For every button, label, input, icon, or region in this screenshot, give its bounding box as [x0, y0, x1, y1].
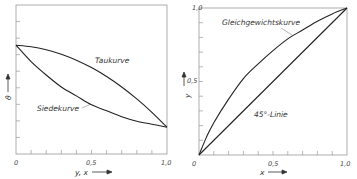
- left-ylabel: ϑ: [4, 95, 13, 100]
- right-xtick-0: 0: [192, 160, 196, 168]
- right-ylabel: y: [183, 93, 192, 99]
- series-45-linie: [199, 8, 347, 155]
- right-xlabel-arrow: [268, 170, 287, 174]
- right-curves: [199, 8, 347, 155]
- right-xtick-0-5: 0,5: [268, 160, 278, 168]
- right-ytick-1-0: 1,0: [192, 4, 202, 12]
- annotation-taukurve: Taukurve: [95, 56, 130, 65]
- gleichgewichtskurve-leader: [281, 28, 292, 35]
- left-ylabel-arrow: [6, 74, 10, 92]
- series-siedekurve: [16, 45, 167, 127]
- left-curves: [16, 45, 167, 127]
- left-xlabel: y, x: [74, 168, 89, 177]
- annotation-gleichgewichtskurve: Gleichgewichtskurve: [222, 18, 300, 27]
- right-ytick-0-5: 0,5: [187, 77, 197, 85]
- left-xtick-0: 0: [14, 159, 18, 167]
- left-chart: 0 0,5 1,0 y, x ϑ Taukurve Siedekurve: [4, 5, 171, 177]
- left-plot-frame: [16, 5, 167, 154]
- left-xtick-0-5: 0,5: [86, 159, 96, 167]
- siedekurve-leader: [82, 105, 89, 108]
- annotation-45-linie: 45°-Linie: [254, 110, 288, 119]
- right-ylabel-arrow: [182, 72, 186, 86]
- right-xlabel: x: [259, 168, 265, 177]
- left-xtick-1-0: 1,0: [161, 159, 171, 167]
- left-xlabel-arrow: [92, 170, 112, 174]
- right-chart: 1,0 0,5 0 0,5 1,0 x y Gleichgewichtskurv…: [182, 4, 350, 177]
- right-xtick-1-0: 1,0: [340, 160, 350, 168]
- figure: 0 0,5 1,0 y, x ϑ Taukurve Siedekurve 1,0…: [0, 0, 357, 179]
- series-taukurve: [16, 45, 167, 127]
- annotation-siedekurve: Siedekurve: [37, 104, 79, 113]
- left-ticks: [16, 22, 152, 154]
